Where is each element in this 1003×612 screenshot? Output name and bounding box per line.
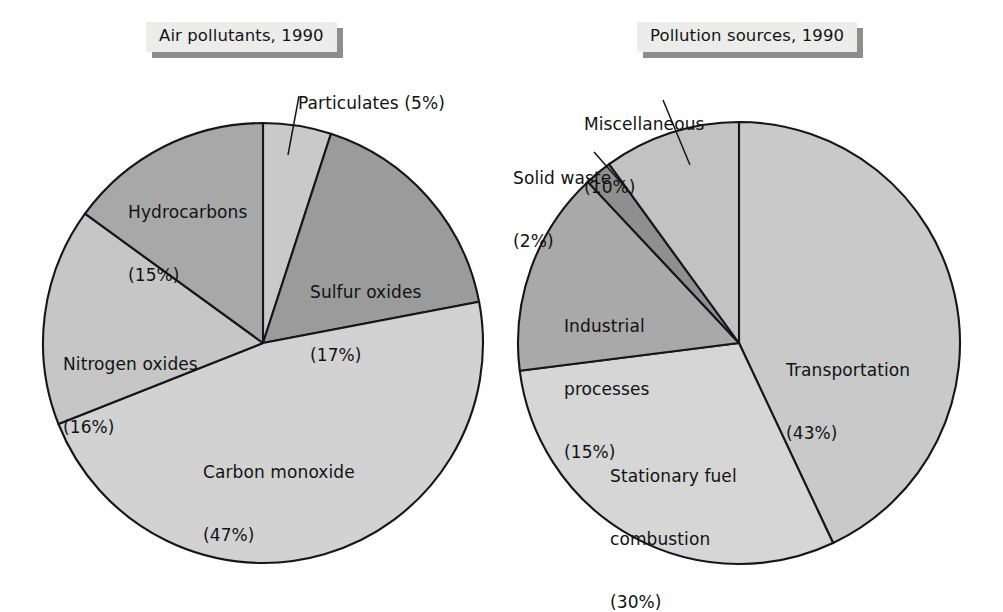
slice-label-stationary-fuel-combustion: Stationary fuel combustion (30%) [610, 424, 737, 612]
slice-label-particulates: Particulates (5%) [276, 72, 445, 135]
slice-label-transportation: Transportation (43%) [786, 318, 910, 486]
slice-label-carbon-monoxide: Carbon monoxide (47%) [203, 420, 355, 588]
slice-label-nitrogen-oxides: Nitrogen oxides (16%) [63, 312, 198, 480]
slice-label-sulfur-oxides-line1: Sulfur oxides [310, 282, 422, 303]
slice-label-carbon-monoxide-line2: (47%) [203, 525, 355, 546]
slice-label-nitrogen-oxides-line1: Nitrogen oxides [63, 354, 198, 375]
slice-label-solid-waste-line1: Solid waste [513, 168, 611, 189]
slice-label-stationary-fuel-combustion-line2: combustion [610, 529, 737, 550]
slice-label-nitrogen-oxides-line2: (16%) [63, 417, 198, 438]
slice-label-industrial-processes-line1: Industrial [564, 316, 650, 337]
slice-label-hydrocarbons-line1: Hydrocarbons [128, 202, 247, 223]
slice-label-transportation-line1: Transportation [786, 360, 910, 381]
slice-label-particulates-text: Particulates (5%) [298, 93, 445, 113]
slice-label-hydrocarbons: Hydrocarbons (15%) [128, 160, 247, 328]
slice-label-solid-waste-line2: (2%) [513, 231, 611, 252]
chart-canvas: Air pollutants, 1990 Pollution sources, … [0, 0, 1003, 612]
slice-label-transportation-line2: (43%) [786, 423, 910, 444]
slice-label-stationary-fuel-combustion-line1: Stationary fuel [610, 466, 737, 487]
slice-label-solid-waste: Solid waste (2%) [513, 126, 611, 294]
slice-label-industrial-processes-line2: processes [564, 379, 650, 400]
slice-label-sulfur-oxides-line2: (17%) [310, 345, 422, 366]
slice-label-hydrocarbons-line2: (15%) [128, 265, 247, 286]
chart-title-pollution-sources: Pollution sources, 1990 [637, 22, 857, 52]
slice-label-sulfur-oxides: Sulfur oxides (17%) [310, 240, 422, 408]
slice-label-carbon-monoxide-line1: Carbon monoxide [203, 462, 355, 483]
slice-label-stationary-fuel-combustion-line3: (30%) [610, 592, 737, 612]
chart-title-air-pollutants: Air pollutants, 1990 [146, 22, 337, 52]
